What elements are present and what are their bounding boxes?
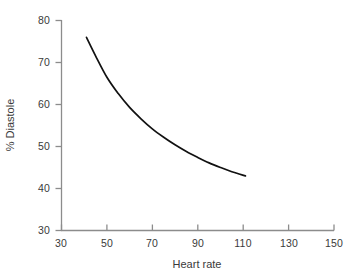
y-tick-label-40: 40	[32, 182, 50, 194]
x-tick-label-130: 130	[280, 237, 298, 249]
y-tick-label-30: 30	[32, 224, 50, 236]
x-tick-label-90: 90	[192, 237, 204, 249]
x-tick-label-30: 30	[55, 237, 67, 249]
y-axis-title: % Diastole	[4, 99, 16, 152]
chart-figure: 80 70 60 50 40 30 30 50 70 90 110 130 15…	[0, 0, 348, 280]
y-tick-label-60: 60	[32, 98, 50, 110]
x-tick-label-110: 110	[234, 237, 251, 249]
y-tick-label-70: 70	[32, 56, 50, 68]
y-axis-ticks	[56, 21, 62, 231]
x-tick-label-150: 150	[325, 237, 343, 249]
y-tick-label-80: 80	[32, 14, 50, 26]
x-tick-label-50: 50	[101, 237, 113, 249]
x-axis-title: Heart rate	[173, 258, 222, 270]
x-axis-ticks	[62, 225, 335, 231]
y-tick-label-50: 50	[32, 140, 50, 152]
data-series-line	[86, 37, 245, 176]
x-tick-label-70: 70	[146, 237, 158, 249]
